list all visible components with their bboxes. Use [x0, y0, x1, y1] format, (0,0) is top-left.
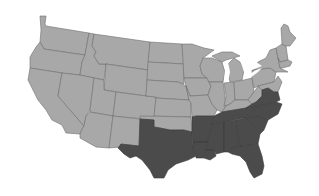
state-kansas [154, 98, 191, 117]
state-washington [40, 16, 89, 55]
us-map [0, 0, 319, 196]
state-north-dakota [148, 42, 184, 64]
state-florida [228, 144, 264, 178]
state-maine [281, 24, 296, 46]
us-map-svg [0, 0, 319, 196]
state-new-mexico [109, 116, 140, 148]
